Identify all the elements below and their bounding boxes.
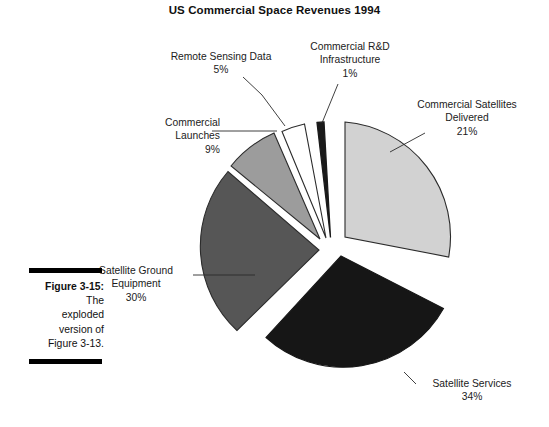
pie-slice-path-commercial-satellites-delivered[interactable] bbox=[345, 122, 451, 257]
slice-label-line: Remote Sensing Data bbox=[160, 50, 282, 63]
slice-label-line: Commercial R&D bbox=[296, 40, 404, 53]
slice-label-commercial-satellites-delivered: Commercial Satellites Delivered 21% bbox=[404, 98, 530, 138]
caption-rule-top bbox=[29, 268, 102, 273]
leader-line-remote-sensing-data bbox=[243, 77, 285, 126]
caption-line: exploded bbox=[29, 308, 104, 322]
pie-slice-commercial-satellites-delivered[interactable] bbox=[345, 122, 451, 257]
caption-text: Figure 3-15: The exploded version of Fig… bbox=[29, 280, 104, 351]
slice-label-commercial-launches: Commercial Launches 9% bbox=[118, 116, 220, 156]
caption-line: The bbox=[29, 294, 104, 308]
slice-label-line: Launches bbox=[118, 129, 220, 142]
slice-label-value: 5% bbox=[160, 63, 282, 76]
slice-label-satellite-services: Satellite Services 34% bbox=[412, 377, 532, 404]
leader-line-commercial-rnd bbox=[322, 84, 338, 123]
slice-label-value: 1% bbox=[296, 67, 404, 80]
slice-label-line: Delivered bbox=[404, 111, 530, 124]
caption-line: version of bbox=[29, 323, 104, 337]
slice-label-value: 21% bbox=[404, 125, 530, 138]
slice-label-line: Infrastructure bbox=[296, 53, 404, 66]
slice-label-commercial-rnd-infrastructure: Commercial R&D Infrastructure 1% bbox=[296, 40, 404, 80]
slice-label-value: 34% bbox=[412, 390, 532, 403]
slice-label-line: Satellite Services bbox=[412, 377, 532, 390]
figure-container: US Commercial Space Revenues 1994 bbox=[0, 0, 549, 427]
slice-label-remote-sensing-data: Remote Sensing Data 5% bbox=[160, 50, 282, 77]
caption-rule-bottom bbox=[29, 359, 102, 364]
caption-figure-number: Figure 3-15: bbox=[29, 280, 104, 294]
slice-label-line: Commercial Satellites bbox=[404, 98, 530, 111]
slice-label-line: Commercial bbox=[118, 116, 220, 129]
caption-line: Figure 3-13. bbox=[29, 337, 104, 351]
figure-caption: Figure 3-15: The exploded version of Fig… bbox=[29, 268, 104, 364]
slice-label-value: 9% bbox=[118, 143, 220, 156]
